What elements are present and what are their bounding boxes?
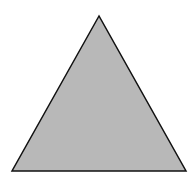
triangle-diagram xyxy=(0,0,194,181)
triangle-shape xyxy=(12,16,186,171)
